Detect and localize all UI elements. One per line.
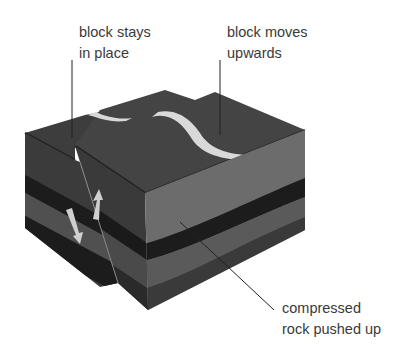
label-compressed-line1: compressed <box>282 300 361 316</box>
label-block-moves-line1: block moves <box>227 24 308 40</box>
label-block-stays-line2: in place <box>79 45 129 61</box>
label-block-stays-line1: block stays <box>79 24 151 40</box>
label-block-moves-line2: upwards <box>227 45 282 61</box>
label-compressed-line2: rock pushed up <box>282 321 381 337</box>
reverse-fault-diagram: block stays in place block moves upwards… <box>0 0 394 354</box>
